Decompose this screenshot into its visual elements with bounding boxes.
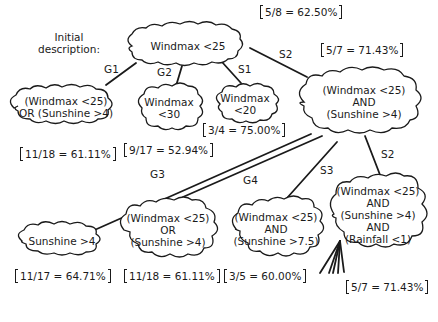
edge-label-s2b: S2 <box>381 148 394 160</box>
node-g2: Windmax <30 <box>134 82 204 134</box>
node-g1-line-2: OR (Sunshine >4) <box>19 107 113 119</box>
edge-label-g4: G4 <box>243 174 258 186</box>
edge-label-s1: S1 <box>238 63 251 75</box>
node-root-score: 5/8 = 62.50% <box>260 5 342 19</box>
node-g3: Sunshine >4 <box>14 221 110 261</box>
node-s2-line-3: (Sunshine >4) <box>326 108 401 120</box>
node-s2b-line-2: AND <box>366 197 389 209</box>
node-g3-score: 11/17 = 64.71% <box>15 269 111 283</box>
node-s3-line-3: (Sunshine >7.5) <box>233 235 318 247</box>
edge-label-g3: G3 <box>150 168 165 180</box>
node-s2-line-1: (Windmax <25) <box>323 84 406 96</box>
edge-label-g1: G1 <box>104 63 119 75</box>
initial-description-label: Initial description: <box>38 31 100 55</box>
node-s2-score: 5/7 = 71.43% <box>321 43 403 57</box>
node-s1-score: 3/4 = 75.00% <box>203 123 285 137</box>
node-s3: (Windmax <25) AND (Sunshine >7.5) <box>228 196 324 262</box>
node-s2b-score: 5/7 = 71.43% <box>346 280 428 294</box>
node-g4-line-1: (Windmax <25) <box>127 212 210 224</box>
node-root-text: Windmax <25 <box>151 40 226 52</box>
intro-line-1: Initial <box>38 31 100 43</box>
node-g2-line-2: <30 <box>158 108 180 120</box>
node-g4-score: 11/18 = 61.11% <box>124 269 220 283</box>
node-s3-score: 3/5 = 60.00% <box>224 269 306 283</box>
node-s1: Windmax <20 <box>212 82 278 126</box>
node-s2b: (Windmax <25) AND (Sunshine >4) AND (Rai… <box>326 174 430 256</box>
node-g4-line-3: (Sunshine >4) <box>130 236 205 248</box>
node-s2-line-2: AND <box>352 96 375 108</box>
node-s1-line-1: Windmax <box>220 92 269 104</box>
node-s3-line-1: (Windmax <25) <box>235 211 318 223</box>
node-s1-line-2: <20 <box>234 104 256 116</box>
node-g2-score: 9/17 = 52.94% <box>124 143 213 157</box>
node-g4: (Windmax <25) OR (Sunshine >4) <box>116 196 220 264</box>
node-g1: (Windmax <25) OR (Sunshine >4) <box>6 84 126 130</box>
edge-label-s3: S3 <box>320 164 333 176</box>
node-g2-line-1: Windmax <box>144 96 193 108</box>
node-root: Windmax <25 <box>122 24 254 68</box>
node-s3-line-2: AND <box>264 223 287 235</box>
edge-label-g2: G2 <box>157 66 172 78</box>
node-s2b-line-5: (Rainfall <1) <box>345 233 411 245</box>
node-g1-score: 11/18 = 61.11% <box>20 147 116 161</box>
intro-line-2: description: <box>38 43 100 55</box>
node-s2b-line-1: (Windmax <25) <box>337 185 420 197</box>
node-g1-line-1: (Windmax <25) <box>25 95 108 107</box>
edge-label-s2: S2 <box>279 48 292 60</box>
node-s2b-line-4: AND <box>366 221 389 233</box>
node-s2: (Windmax <25) AND (Sunshine >4) <box>294 66 434 138</box>
node-s2b-line-3: (Sunshine >4) <box>340 209 415 221</box>
node-g4-line-2: OR <box>160 224 176 236</box>
node-g3-text: Sunshine >4 <box>29 235 96 247</box>
